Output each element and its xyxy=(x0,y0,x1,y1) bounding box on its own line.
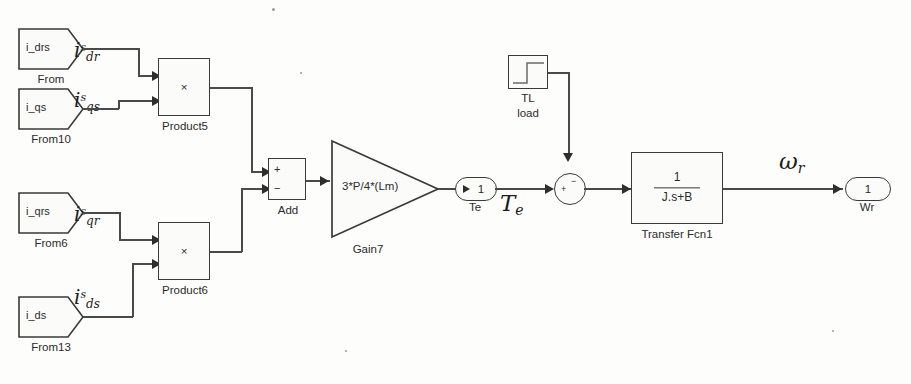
tl-load-name-line2: load xyxy=(503,107,553,119)
step-waveform-icon xyxy=(509,56,549,90)
fraction-bar xyxy=(654,187,700,188)
signal-label-idr-sub: dr xyxy=(86,50,99,64)
product5-name-label: Product5 xyxy=(152,120,218,132)
arrow-transfer-in xyxy=(622,184,631,194)
wire-product5-out xyxy=(210,87,252,89)
signal-label-idr: isdr xyxy=(74,38,99,64)
wire-step-drop xyxy=(568,72,570,156)
signal-label-wr: ωr xyxy=(779,148,804,176)
wire-product5-out-drop xyxy=(251,87,253,172)
from-block-tag-label: i_ds xyxy=(26,309,46,321)
product6-symbol: × xyxy=(159,245,209,257)
wire-transfer-to-wr xyxy=(723,188,843,190)
te-outport-arrow-icon xyxy=(463,185,470,193)
signal-label-iqs-sub: qs xyxy=(86,100,100,114)
wr-outport-number: 1 xyxy=(865,183,871,195)
wire-from6-drop xyxy=(119,212,121,240)
add-block[interactable]: + − xyxy=(268,158,306,200)
scan-speck xyxy=(832,330,834,332)
wr-outport-name-label: Wr xyxy=(845,201,889,213)
wire-from13-out xyxy=(83,316,133,318)
transfer-fcn1-block[interactable]: 1 J.s+B xyxy=(631,152,723,224)
arrow-sum-in-plus xyxy=(545,184,554,194)
scan-speck xyxy=(272,8,275,11)
te-outport-number: 1 xyxy=(478,183,484,195)
wire-from10-to-product5-in xyxy=(118,100,155,102)
wire-from-to-product5-drop xyxy=(138,48,140,76)
arrow-sum-in-minus xyxy=(563,153,573,162)
from-block-tag-label: i_drs xyxy=(26,41,50,53)
transfer-fcn1-denominator: J.s+B xyxy=(632,191,722,206)
signal-label-ids-sub: ds xyxy=(86,297,100,311)
signal-label-iqs: isqs xyxy=(74,88,100,114)
wire-from6-out xyxy=(83,212,120,214)
signal-label-wr-sub: r xyxy=(798,160,805,176)
sum-junction-block[interactable]: + − xyxy=(554,173,586,205)
signal-label-Te-base: T xyxy=(500,190,515,216)
gain7-block[interactable]: 3*P/4*(Lm) xyxy=(330,139,440,239)
wire-product6-out xyxy=(210,251,242,253)
tl-load-step-block[interactable] xyxy=(508,55,548,89)
add-sign-plus: + xyxy=(274,164,280,175)
tl-load-name-line1: TL xyxy=(503,92,553,104)
gain7-name-label: Gain7 xyxy=(338,243,398,255)
wire-step-out xyxy=(548,72,570,74)
wire-product6-out-rise xyxy=(241,188,243,252)
te-outport-name-label: Te xyxy=(455,201,495,213)
signal-label-iqr-sub: qr xyxy=(86,214,99,228)
gain7-expression: 3*P/4*(Lm) xyxy=(342,180,398,192)
wr-outport[interactable]: 1 xyxy=(845,177,891,201)
from-block-name-label: From10 xyxy=(16,133,86,145)
product6-name-label: Product6 xyxy=(152,284,218,296)
add-sign-minus: − xyxy=(274,183,280,194)
wire-from-to-product5 xyxy=(83,48,139,50)
te-outport[interactable]: 1 xyxy=(455,177,497,201)
wire-from13-rise xyxy=(132,263,134,317)
from-block-name-label: From6 xyxy=(16,237,86,249)
from-block-tag-label: i_qrs xyxy=(26,205,50,217)
transfer-fcn1-name-label: Transfer Fcn1 xyxy=(629,228,725,240)
product6-block[interactable]: × xyxy=(158,222,210,280)
signal-label-ids: isds xyxy=(74,285,100,311)
wire-from10-to-product5 xyxy=(83,108,119,110)
transfer-fcn1-fraction: 1 J.s+B xyxy=(632,170,722,205)
add-block-name-label: Add xyxy=(265,204,311,216)
scan-speck xyxy=(345,350,347,352)
sum-sign-plus: + xyxy=(561,185,566,194)
signal-label-Te: Te xyxy=(500,190,524,218)
from-block-name-label: From xyxy=(18,73,84,85)
signal-label-iqr: isqr xyxy=(74,202,99,228)
signal-label-Te-sub: e xyxy=(515,202,523,218)
block-diagram-canvas: i_drs From isdr i_qs From10 isqs × Produ… xyxy=(0,0,911,384)
wire-from6-to-product6 xyxy=(119,239,155,241)
sum-sign-minus: − xyxy=(571,177,576,186)
product5-block[interactable]: × xyxy=(158,58,210,116)
arrow-wr-in xyxy=(833,184,842,194)
from-block-tag-label: i_qs xyxy=(26,101,46,113)
from-block-name-label: From13 xyxy=(16,341,86,353)
product5-symbol: × xyxy=(159,81,209,93)
signal-label-wr-base: ω xyxy=(779,148,798,174)
transfer-fcn1-numerator: 1 xyxy=(632,170,722,185)
arrow-gain-in xyxy=(320,176,329,186)
scan-speck xyxy=(300,72,302,74)
